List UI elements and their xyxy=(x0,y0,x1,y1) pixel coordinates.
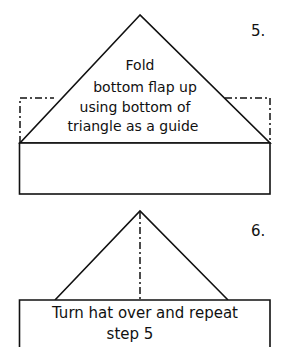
step-5-instruction-line-4: triangle as a guide xyxy=(48,119,218,133)
step-5-brim xyxy=(20,143,271,194)
step-6-instruction-line-1: Turn hat over and repeat xyxy=(30,306,260,321)
step-5-instruction-line-1: Fold xyxy=(110,58,170,72)
step-6-triangle xyxy=(55,211,228,300)
step-6-number: 6. xyxy=(251,224,265,239)
step-5-number: 5. xyxy=(251,24,265,39)
origami-hat-diagram xyxy=(0,0,286,347)
step-6-instruction-line-2: step 5 xyxy=(90,327,170,342)
step-5-instruction-line-2: bottom flap up xyxy=(80,80,210,94)
step-5-instruction-line-3: using bottom of xyxy=(65,100,205,114)
